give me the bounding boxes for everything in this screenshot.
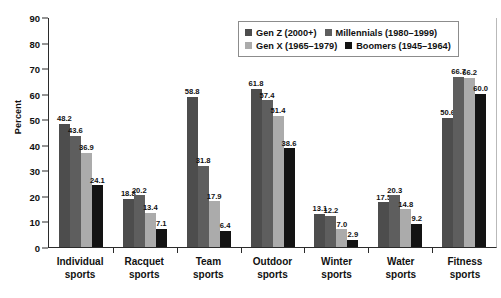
x-axis-category-label: Outdoorsports <box>240 256 304 281</box>
bar[interactable]: 17.9 <box>209 201 220 247</box>
x-tick-mark <box>432 247 433 253</box>
x-axis-label-line: sports <box>369 269 433 282</box>
x-axis-label-line: Fitness <box>433 256 497 269</box>
bar-slot: 58.8 <box>187 18 198 247</box>
bar-value-label: 9.2 <box>411 215 422 223</box>
bar[interactable]: 13.1 <box>314 214 325 247</box>
bar[interactable]: 12.2 <box>325 216 336 247</box>
legend-item-label: Boomers (1945–1964) <box>356 41 450 51</box>
legend-row-1: Gen Z (2000+)Millennials (1980–1999) <box>245 26 451 39</box>
legend-item-label: Gen Z (2000+) <box>256 28 317 38</box>
bar[interactable]: 31.8 <box>198 166 209 247</box>
x-axis-label-line: sports <box>112 269 176 282</box>
x-axis-label-line: sports <box>240 269 304 282</box>
bar-value-label: 60.0 <box>473 85 488 93</box>
bar[interactable]: 7.0 <box>336 229 347 247</box>
bar[interactable]: 6.4 <box>220 231 231 247</box>
chart-legend: Gen Z (2000+)Millennials (1980–1999) Gen… <box>238 21 459 57</box>
bar[interactable]: 50.6 <box>442 118 453 247</box>
bar[interactable]: 14.8 <box>400 209 411 247</box>
x-axis-category-label: Racquetsports <box>112 256 176 281</box>
bar[interactable]: 58.8 <box>187 97 198 247</box>
y-tick-label: 70 <box>29 64 40 75</box>
legend-item-label: Millennials (1980–1999) <box>336 28 438 38</box>
legend-swatch-icon <box>345 42 352 49</box>
bar-slot: 17.9 <box>209 18 220 247</box>
x-tick-mark <box>368 247 369 253</box>
bar-slot: 31.8 <box>198 18 209 247</box>
bar[interactable]: 18.8 <box>123 199 134 247</box>
bar[interactable]: 61.8 <box>251 89 262 247</box>
x-axis-labels: IndividualsportsRacquetsportsTeamsportsO… <box>48 256 497 281</box>
y-tick-label: 50 <box>29 115 40 126</box>
bar-chart: Percent 0102030405060708090 48.243.636.9… <box>0 0 501 298</box>
bar[interactable]: 43.6 <box>70 136 81 247</box>
bar-slot: 24.1 <box>92 18 103 247</box>
y-tick-label: 60 <box>29 89 40 100</box>
bar-value-label: 38.6 <box>282 140 297 148</box>
x-tick-mark <box>113 247 114 253</box>
bar[interactable]: 17.5 <box>378 202 389 247</box>
bar[interactable]: 51.4 <box>273 116 284 247</box>
x-axis-label-line: Winter <box>305 256 369 269</box>
legend-item[interactable]: Gen X (1965–1979) <box>245 41 337 51</box>
y-tick-label: 0 <box>35 243 40 254</box>
bar-group: 48.243.636.924.1 <box>49 18 113 247</box>
x-tick-mark <box>304 247 305 253</box>
legend-item[interactable]: Boomers (1945–1964) <box>345 41 450 51</box>
bar-slot: 60.0 <box>475 18 486 247</box>
legend-item[interactable]: Gen Z (2000+) <box>245 28 317 38</box>
x-axis-label-line: sports <box>433 269 497 282</box>
legend-item[interactable]: Millennials (1980–1999) <box>325 28 438 38</box>
bar-slot: 20.2 <box>134 18 145 247</box>
x-axis-label-line: sports <box>176 269 240 282</box>
x-axis-label-line: Racquet <box>112 256 176 269</box>
bar-group: 18.820.213.47.1 <box>113 18 177 247</box>
legend-item-label: Gen X (1965–1979) <box>256 41 337 51</box>
y-axis-ticks: 0102030405060708090 <box>0 18 48 248</box>
bar-value-label: 24.1 <box>90 177 105 185</box>
legend-swatch-icon <box>245 29 252 36</box>
legend-swatch-icon <box>245 42 252 49</box>
bar-slot: 6.4 <box>220 18 231 247</box>
bar-value-label: 6.4 <box>220 222 231 230</box>
bar-value-label: 7.0 <box>337 221 348 229</box>
bar[interactable]: 36.9 <box>81 153 92 247</box>
x-axis-label-line: sports <box>48 269 112 282</box>
x-axis-label-line: Outdoor <box>240 256 304 269</box>
y-tick-label: 20 <box>29 191 40 202</box>
bar-value-label: 7.1 <box>156 220 167 228</box>
x-axis-category-label: Wintersports <box>305 256 369 281</box>
bar[interactable]: 13.4 <box>145 213 156 247</box>
x-tick-mark <box>241 247 242 253</box>
bar[interactable]: 7.1 <box>156 229 167 247</box>
legend-row-2: Gen X (1965–1979)Boomers (1945–1964) <box>245 39 451 52</box>
x-axis-category-label: Watersports <box>369 256 433 281</box>
x-axis-category-label: Fitnesssports <box>433 256 497 281</box>
legend-swatch-icon <box>325 29 332 36</box>
y-tick-label: 30 <box>29 166 40 177</box>
bar-slot: 36.9 <box>81 18 92 247</box>
bar[interactable]: 48.2 <box>59 124 70 247</box>
y-tick-label: 80 <box>29 38 40 49</box>
bar-slot: 43.6 <box>70 18 81 247</box>
bar[interactable]: 66.2 <box>464 78 475 247</box>
bar[interactable]: 24.1 <box>92 185 103 247</box>
bar-slot: 13.4 <box>145 18 156 247</box>
bar[interactable]: 60.0 <box>475 94 486 247</box>
x-axis-category-label: Teamsports <box>176 256 240 281</box>
y-tick-label: 40 <box>29 140 40 151</box>
bar-group: 58.831.817.96.4 <box>177 18 241 247</box>
y-tick-label: 90 <box>29 13 40 24</box>
bar[interactable]: 9.2 <box>411 224 422 248</box>
bar[interactable]: 57.4 <box>262 100 273 247</box>
bar-slot: 66.2 <box>464 18 475 247</box>
y-tick-label: 10 <box>29 217 40 228</box>
bar-slot: 18.8 <box>123 18 134 247</box>
bar-value-label: 2.9 <box>348 231 359 239</box>
x-axis-label-line: Individual <box>48 256 112 269</box>
bar[interactable]: 66.7 <box>453 77 464 247</box>
x-axis-label-line: Team <box>176 256 240 269</box>
bar[interactable]: 38.6 <box>284 148 295 247</box>
bar[interactable]: 2.9 <box>347 240 358 247</box>
